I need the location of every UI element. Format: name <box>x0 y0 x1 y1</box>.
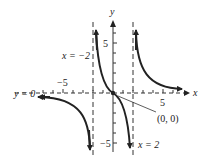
origin-point-label: (0, 0) <box>157 113 179 125</box>
x-axis <box>15 89 190 96</box>
curve-left-branch <box>40 97 90 148</box>
x-axis-label: x <box>192 87 198 98</box>
tick-label-x-5: 5 <box>160 97 165 108</box>
asymptote-label-y-0: y = 0 <box>13 88 35 99</box>
y-axis-label: y <box>109 6 115 17</box>
curve-middle-branch-top <box>96 30 97 50</box>
tick-label-x-neg5: −5 <box>57 77 68 88</box>
graph: y x −5 5 5 −5 x = −2 x = 2 y = 0 (0, 0) <box>0 0 211 160</box>
asymptote-label-x-neg2: x = −2 <box>61 50 90 61</box>
y-axis <box>110 20 117 152</box>
tick-label-y-neg5: −5 <box>100 138 111 149</box>
curve-right-branch <box>136 32 182 89</box>
origin-point <box>111 91 115 95</box>
asymptote-label-x-2: x = 2 <box>137 139 159 150</box>
tick-label-y-5: 5 <box>103 38 108 49</box>
curve-left-branch-down <box>89 130 90 150</box>
